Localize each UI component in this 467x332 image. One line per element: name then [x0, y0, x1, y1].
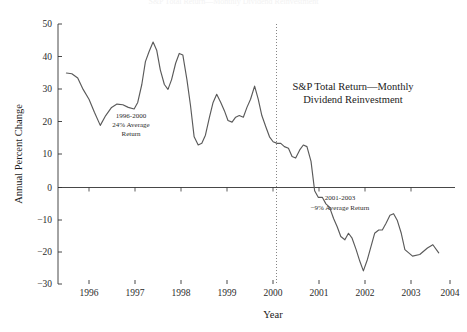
data-series-line	[66, 42, 438, 271]
x-tick-label-1999: 1999	[218, 288, 237, 298]
y-tick-label-10: 10	[43, 149, 53, 159]
chart-figure: S&P Total Return—Monthly Dividend Reinve…	[0, 0, 467, 332]
series-legend-line2: Dividend Reinvestment	[303, 94, 403, 105]
y-tick-label-50: 50	[43, 19, 53, 29]
y-tick-label-0: 0	[47, 183, 52, 193]
y-tick-label-neg30: −30	[37, 279, 52, 289]
left-period-note-line2: 24% Average	[112, 121, 149, 129]
left-period-note-line3: Return	[121, 130, 141, 138]
y-tick-label-neg20: −20	[37, 247, 52, 257]
x-tick-label-2002: 2002	[356, 288, 375, 298]
x-axis-zero-ticks	[89, 188, 411, 192]
y-tick-label-40: 40	[43, 52, 53, 62]
series-legend-line1: S&P Total Return—Monthly	[292, 81, 414, 92]
right-period-note-line2: −9% Average Return	[311, 204, 370, 212]
x-tick-label-2003: 2003	[402, 288, 421, 298]
x-tick-label-1997: 1997	[126, 288, 145, 298]
sp-total-return-line-chart: 50 40 30 20 10 0 −10 −20 −30	[0, 0, 467, 332]
x-tick-label-2000: 2000	[264, 288, 283, 298]
x-tick-label-1998: 1998	[172, 288, 191, 298]
right-period-note-line1: 2001-2003	[325, 194, 356, 202]
left-period-note-line1: 1996-2000	[116, 112, 147, 120]
y-axis-ticks	[58, 24, 62, 284]
x-axis-ticks	[89, 280, 450, 284]
x-axis-title: Year	[263, 309, 283, 320]
y-tick-label-20: 20	[43, 117, 53, 127]
y-tick-label-neg10: −10	[37, 215, 52, 225]
y-tick-label-30: 30	[43, 84, 53, 94]
x-tick-label-1996: 1996	[80, 288, 99, 298]
x-tick-label-2004: 2004	[441, 288, 460, 298]
y-axis-title: Annual Percent Change	[13, 104, 24, 204]
x-tick-label-2001: 2001	[310, 288, 329, 298]
